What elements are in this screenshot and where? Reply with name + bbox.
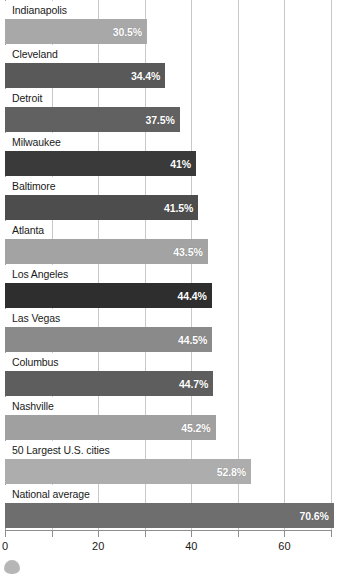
bar: 44.5%	[5, 327, 212, 352]
bar: 41.5%	[5, 195, 198, 220]
category-label: Cleveland	[5, 45, 65, 63]
x-tick	[145, 530, 146, 537]
bar-value-label: 34.4%	[131, 70, 165, 82]
x-tick	[5, 530, 6, 537]
category-label: Las Vegas	[5, 309, 67, 327]
chart-row: 44.7%Columbus	[5, 352, 332, 396]
x-tick	[284, 530, 285, 537]
chart-row: 34.4%Cleveland	[5, 44, 332, 88]
bar: 30.5%	[5, 19, 147, 44]
category-label: Atlanta	[5, 221, 51, 239]
bar: 41%	[5, 151, 196, 176]
bar-value-label: 44.4%	[178, 290, 212, 302]
bar-value-label: 45.2%	[181, 422, 215, 434]
bar: 37.5%	[5, 107, 180, 132]
x-tick	[238, 530, 239, 537]
x-tick-label: 40	[185, 540, 197, 552]
chart-row: 44.4%Los Angeles	[5, 264, 332, 308]
bar-value-label: 41%	[170, 158, 196, 170]
chart-row: 52.8%50 Largest U.S. cities	[5, 440, 332, 484]
bar: 34.4%	[5, 63, 165, 88]
category-label: National average	[5, 485, 97, 503]
chart-row: 45.2%Nashville	[5, 396, 332, 440]
bar-value-label: 30.5%	[113, 26, 147, 38]
bar-value-label: 52.8%	[217, 466, 251, 478]
chart-row: 37.5%Detroit	[5, 88, 332, 132]
category-label: Los Angeles	[5, 265, 75, 283]
chart-row: 41%Milwaukee	[5, 132, 332, 176]
bar: 70.6%	[5, 503, 334, 528]
bar: 44.4%	[5, 283, 212, 308]
bar-value-label: 70.6%	[300, 510, 334, 522]
bar: 45.2%	[5, 415, 216, 440]
x-tick	[52, 530, 53, 537]
bar: 43.5%	[5, 239, 208, 264]
x-tick-label: 60	[278, 540, 290, 552]
bar: 44.7%	[5, 371, 213, 396]
plot-area: 30.5%Indianapolis34.4%Cleveland37.5%Detr…	[5, 0, 332, 530]
chart-row: 44.5%Las Vegas	[5, 308, 332, 352]
category-label: Detroit	[5, 89, 49, 107]
bar-value-label: 37.5%	[145, 114, 179, 126]
bar-value-label: 44.7%	[179, 378, 213, 390]
chart-row: 41.5%Baltimore	[5, 176, 332, 220]
category-label: 50 Largest U.S. cities	[5, 441, 117, 459]
chart-row: 30.5%Indianapolis	[5, 0, 332, 44]
category-label: Columbus	[5, 353, 65, 371]
x-tick	[98, 530, 99, 537]
x-tick	[331, 530, 332, 537]
category-label: Baltimore	[5, 177, 62, 195]
x-tick-label: 20	[92, 540, 104, 552]
page-corner-mark	[4, 560, 20, 574]
bar: 52.8%	[5, 459, 251, 484]
chart-row: 43.5%Atlanta	[5, 220, 332, 264]
category-label: Nashville	[5, 397, 61, 415]
x-tick	[191, 530, 192, 537]
bar-value-label: 41.5%	[164, 202, 198, 214]
x-tick-label: 0	[2, 540, 8, 552]
chart-row: 70.6%National average	[5, 484, 332, 528]
category-label: Milwaukee	[5, 133, 68, 151]
category-label: Indianapolis	[5, 1, 74, 19]
x-axis-line	[5, 530, 332, 531]
bar-value-label: 43.5%	[173, 246, 207, 258]
bar-value-label: 44.5%	[178, 334, 212, 346]
